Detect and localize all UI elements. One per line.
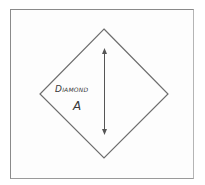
diamond-diagram xyxy=(0,0,205,185)
height-arrow-icon xyxy=(102,48,107,135)
diamond-name-label: Diamond xyxy=(55,84,88,94)
diamond-letter-label: A xyxy=(73,99,81,113)
